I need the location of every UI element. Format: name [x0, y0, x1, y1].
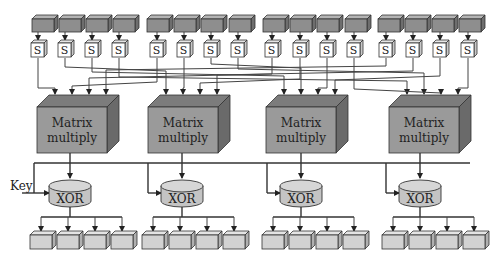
sbox: S — [406, 40, 422, 57]
sbox: S — [347, 40, 363, 57]
input-block — [113, 15, 139, 32]
xor-cylinder: XOR — [399, 180, 441, 207]
input-block — [32, 15, 58, 32]
sbox: S — [85, 40, 101, 57]
input-block — [86, 15, 112, 32]
input-block — [147, 15, 173, 32]
input-block — [432, 15, 458, 32]
xor-label: XOR — [168, 192, 196, 206]
output-block — [196, 231, 222, 249]
input-block — [229, 15, 255, 32]
output-block — [223, 231, 249, 249]
xor-label: XOR — [406, 192, 434, 206]
sbox: S — [433, 40, 449, 57]
sbox: S — [265, 40, 281, 57]
matrix-multiply-block: Matrixmultiply — [389, 95, 471, 153]
matrix-label: Matrix — [281, 116, 322, 130]
mds-diffusion-diagram: SSSSSSSSSSSSSSSS MatrixmultiplyMatrixmul… — [0, 0, 504, 265]
sbox-label: S — [88, 44, 96, 57]
xor-units: XORXORXORXOR — [49, 180, 441, 207]
diagram-container: SSSSSSSSSSSSSSSS MatrixmultiplyMatrixmul… — [0, 0, 504, 265]
input-block — [263, 15, 289, 32]
sbox-label: S — [464, 44, 472, 57]
sbox: S — [150, 40, 166, 57]
input-block — [459, 15, 485, 32]
sbox-label: S — [268, 44, 276, 57]
matrix-multiply-blocks: MatrixmultiplyMatrixmultiplyMatrixmultip… — [37, 95, 471, 153]
matrix-multiply-block: Matrixmultiply — [266, 95, 348, 153]
input-block — [317, 15, 343, 32]
xor-cylinder: XOR — [161, 180, 203, 207]
output-block — [463, 231, 489, 249]
output-block — [142, 231, 168, 249]
sbox: S — [204, 40, 220, 57]
output-block — [262, 231, 288, 249]
output-block — [111, 231, 137, 249]
output-block — [316, 231, 342, 249]
xor-cylinder: XOR — [49, 180, 91, 207]
input-block — [378, 15, 404, 32]
sbox: S — [58, 40, 74, 57]
matrix-label: multiply — [276, 131, 326, 145]
sbox-label: S — [207, 44, 215, 57]
input-block — [59, 15, 85, 32]
output-block — [409, 231, 435, 249]
sbox-label: S — [436, 44, 444, 57]
matrix-multiply-block: Matrixmultiply — [148, 95, 230, 153]
sbox-label: S — [234, 44, 242, 57]
s-boxes: SSSSSSSSSSSSSSSS — [31, 40, 477, 57]
sbox-label: S — [350, 44, 358, 57]
sbox: S — [461, 40, 477, 57]
output-block — [84, 231, 110, 249]
xor-label: XOR — [287, 192, 315, 206]
matrix-label: Matrix — [163, 116, 204, 130]
output-block — [169, 231, 195, 249]
sbox: S — [177, 40, 193, 57]
input-block — [201, 15, 227, 32]
output-block — [343, 231, 369, 249]
matrix-multiply-block: Matrixmultiply — [37, 95, 119, 153]
matrix-label: Matrix — [404, 116, 445, 130]
matrix-label: multiply — [158, 131, 208, 145]
sbox-label: S — [61, 44, 69, 57]
matrix-label: multiply — [399, 131, 449, 145]
output-block — [289, 231, 315, 249]
xor-label: XOR — [56, 192, 84, 206]
input-block — [174, 15, 200, 32]
output-blocks — [30, 231, 489, 249]
sbox: S — [112, 40, 128, 57]
sbox-label: S — [34, 44, 42, 57]
sbox: S — [31, 40, 47, 57]
key-label: Key — [10, 179, 33, 193]
input-block — [290, 15, 316, 32]
sbox: S — [379, 40, 395, 57]
output-block — [30, 231, 56, 249]
sbox: S — [320, 40, 336, 57]
matrix-label: Matrix — [52, 116, 93, 130]
output-block — [382, 231, 408, 249]
matrix-label: multiply — [47, 131, 97, 145]
sbox-label: S — [323, 44, 331, 57]
sbox-label: S — [153, 44, 161, 57]
sbox: S — [231, 40, 247, 57]
sbox-label: S — [409, 44, 417, 57]
sbox-label: S — [382, 44, 390, 57]
input-blocks — [32, 15, 485, 32]
output-block — [57, 231, 83, 249]
sbox-label: S — [180, 44, 188, 57]
input-block — [345, 15, 371, 32]
xor-cylinder: XOR — [280, 180, 322, 207]
sbox: S — [293, 40, 309, 57]
output-block — [436, 231, 462, 249]
sbox-label: S — [115, 44, 123, 57]
sbox-label: S — [296, 44, 304, 57]
input-block — [405, 15, 431, 32]
